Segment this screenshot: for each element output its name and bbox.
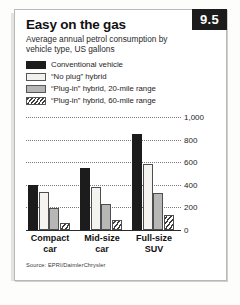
bar — [132, 134, 142, 230]
bar-group — [80, 117, 124, 230]
legend-swatch-plug-in-60-icon — [26, 97, 46, 105]
bar — [49, 208, 59, 230]
y-axis-tick-label: 400 — [184, 180, 197, 189]
category-label-line: Compact — [20, 233, 80, 244]
bar — [91, 187, 101, 231]
chart-title: Easy on the gas — [26, 17, 126, 32]
legend-label-conventional: Conventional vehicle — [51, 60, 123, 69]
y-axis-tick-label: 0 — [184, 226, 188, 235]
chart-frame: 9.5 Easy on the gas Average annual petro… — [14, 9, 227, 281]
chart-category-labels: CompactcarMid-sizecarFull-sizeSUV — [26, 233, 181, 259]
category-label: Mid-sizecar — [72, 233, 132, 254]
y-axis-tick-label: 200 — [184, 203, 197, 212]
bar-group — [132, 117, 176, 230]
legend-label-no-plug-hybrid: “No plug” hybrid — [51, 72, 106, 81]
chart-number-badge: 9.5 — [192, 9, 227, 30]
chart-card: 9.5 Easy on the gas Average annual petro… — [0, 0, 240, 305]
bar — [164, 215, 174, 230]
bar-group — [28, 117, 72, 230]
legend-swatch-conventional-icon — [26, 61, 46, 69]
chart-subtitle: Average annual petrol consumption by veh… — [26, 34, 191, 55]
category-label: Full-sizeSUV — [124, 233, 184, 254]
category-label-line: Full-size — [124, 233, 184, 244]
legend-item-plug-in-20: “Plug-in” hybrid, 20-mile range — [26, 83, 156, 94]
legend-item-conventional: Conventional vehicle — [26, 59, 156, 70]
category-label: Compactcar — [20, 233, 80, 254]
chart-legend: Conventional vehicle “No plug” hybrid “P… — [26, 59, 156, 107]
chart-plot-area: CompactcarMid-sizecarFull-sizeSUV 020040… — [26, 117, 214, 241]
chart-source: Source: EPRI/DaimlerChrysler — [26, 262, 106, 268]
y-axis-tick-label: 600 — [184, 158, 197, 167]
legend-label-plug-in-20: “Plug-in” hybrid, 20-mile range — [51, 84, 156, 93]
bar — [143, 164, 153, 230]
y-axis-tick-label: 1,000 — [184, 113, 204, 122]
legend-label-plug-in-60: “Plug-in” hybrid, 60-mile range — [51, 96, 156, 105]
chart-bars — [26, 117, 181, 230]
y-axis-tick-label: 800 — [184, 135, 197, 144]
legend-item-plug-in-60: “Plug-in” hybrid, 60-mile range — [26, 95, 156, 106]
bar — [39, 192, 49, 230]
category-label-line: car — [20, 244, 80, 255]
bar — [153, 193, 163, 230]
category-label-line: car — [72, 244, 132, 255]
legend-item-no-plug-hybrid: “No plug” hybrid — [26, 71, 156, 82]
legend-swatch-no-plug-hybrid-icon — [26, 73, 46, 81]
legend-swatch-plug-in-20-icon — [26, 85, 46, 93]
category-label-line: Mid-size — [72, 233, 132, 244]
bar — [80, 168, 90, 230]
category-label-line: SUV — [124, 244, 184, 255]
gridline-0 — [26, 230, 181, 231]
bar — [101, 204, 111, 230]
bar — [112, 220, 122, 230]
bar — [28, 185, 38, 230]
bar — [60, 223, 70, 230]
